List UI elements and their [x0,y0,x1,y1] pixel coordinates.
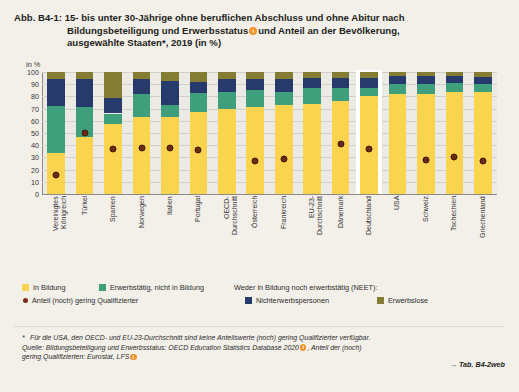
bar-segment[interactable] [417,94,435,194]
bar-column[interactable] [275,72,293,194]
stacked-bar[interactable] [133,72,151,194]
bar-segment[interactable] [474,72,492,77]
bar-segment[interactable] [133,79,151,94]
bar-segment[interactable] [76,72,94,79]
stacked-bar[interactable] [389,72,407,194]
bar-segment[interactable] [389,94,407,194]
bar-segment[interactable] [474,84,492,91]
bar-segment[interactable] [190,72,208,82]
bar-column[interactable] [133,72,151,194]
stacked-bar[interactable] [332,72,350,194]
bar-column[interactable] [417,72,435,194]
bar-segment[interactable] [76,137,94,194]
info-marker-icon[interactable]: i [130,354,137,361]
bar-column[interactable] [389,72,407,194]
bar-segment[interactable] [246,107,264,194]
bar-segment[interactable] [360,88,378,97]
bar-segment[interactable] [303,88,321,104]
overlay-point-marker[interactable] [81,130,88,137]
bar-segment[interactable] [218,72,236,79]
bar-segment[interactable] [389,76,407,85]
stacked-bar[interactable] [190,72,208,194]
bar-column[interactable] [332,72,350,194]
bar-segment[interactable] [104,114,122,125]
table-reference-link[interactable]: → Tab. B4-2web [450,360,505,369]
bar-segment[interactable] [104,72,122,98]
stacked-bar[interactable] [417,72,435,194]
legend-item-erwerbslose[interactable]: Erwerbslose [377,296,428,305]
bar-segment[interactable] [161,72,179,81]
bar-segment[interactable] [76,79,94,107]
bar-segment[interactable] [446,72,464,76]
bar-segment[interactable] [133,72,151,79]
overlay-point-marker[interactable] [53,171,60,178]
bar-segment[interactable] [104,124,122,194]
bar-segment[interactable] [417,84,435,94]
bar-segment[interactable] [161,81,179,105]
bar-segment[interactable] [47,79,65,106]
bar-column[interactable] [474,72,492,194]
overlay-point-marker[interactable] [138,144,145,151]
legend-item-in-bildung[interactable]: In Bildung [22,283,65,292]
bar-column[interactable] [104,72,122,194]
stacked-bar[interactable] [360,72,378,194]
overlay-point-marker[interactable] [195,147,202,154]
bar-segment[interactable] [303,104,321,194]
bar-segment[interactable] [133,117,151,194]
bar-column[interactable] [218,72,236,194]
bar-segment[interactable] [246,90,264,107]
bar-segment[interactable] [446,76,464,83]
bar-column[interactable] [303,72,321,194]
bar-segment[interactable] [218,109,236,194]
bar-segment[interactable] [190,82,208,93]
overlay-point-marker[interactable] [366,145,373,152]
bar-segment[interactable] [389,84,407,94]
bar-column[interactable] [360,72,378,194]
overlay-point-marker[interactable] [280,155,287,162]
stacked-bar[interactable] [218,72,236,194]
overlay-point-marker[interactable] [166,144,173,151]
bar-segment[interactable] [47,72,65,79]
bar-segment[interactable] [389,72,407,76]
bar-segment[interactable] [190,93,208,113]
bar-segment[interactable] [275,92,293,105]
bar-segment[interactable] [133,94,151,117]
bar-segment[interactable] [474,77,492,84]
bar-segment[interactable] [446,92,464,194]
bar-segment[interactable] [104,98,122,114]
bar-segment[interactable] [246,72,264,79]
bar-segment[interactable] [218,92,236,109]
legend-item-gering-qualifizierte[interactable]: Anteil (noch) gering Qualifizierter [22,296,138,305]
bar-segment[interactable] [303,78,321,88]
bar-segment[interactable] [360,72,378,78]
bar-segment[interactable] [474,92,492,194]
info-marker-icon[interactable]: i [249,27,257,35]
overlay-point-marker[interactable] [451,154,458,161]
bar-segment[interactable] [161,117,179,194]
bar-segment[interactable] [417,76,435,85]
bar-segment[interactable] [332,78,350,88]
bar-segment[interactable] [332,72,350,78]
bar-segment[interactable] [218,79,236,91]
bar-segment[interactable] [246,79,264,90]
bar-segment[interactable] [275,105,293,194]
bar-segment[interactable] [275,79,293,91]
stacked-bar[interactable] [275,72,293,194]
bar-column[interactable] [161,72,179,194]
stacked-bar[interactable] [446,72,464,194]
stacked-bar[interactable] [303,72,321,194]
bar-segment[interactable] [47,106,65,152]
overlay-point-marker[interactable] [337,141,344,148]
info-marker-icon[interactable]: i [300,344,307,351]
overlay-point-marker[interactable] [252,158,259,165]
overlay-point-marker[interactable] [110,145,117,152]
bar-column[interactable] [246,72,264,194]
stacked-bar[interactable] [161,72,179,194]
stacked-bar[interactable] [246,72,264,194]
stacked-bar[interactable] [104,72,122,194]
bar-segment[interactable] [360,78,378,88]
bar-column[interactable] [190,72,208,194]
bar-segment[interactable] [275,72,293,79]
legend-item-nichterwerbspersonen[interactable]: Nichterwerbspersonen [245,296,329,305]
legend-item-erwerbstaetig[interactable]: Erwerbstätig, nicht in Bildung [99,283,204,292]
